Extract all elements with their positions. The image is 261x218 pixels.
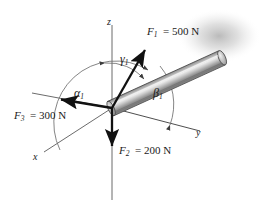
force-diagram-figure: F1 = 500 N F2 = 200 N F3 = 300 N α1 β1 γ…	[0, 0, 261, 218]
figure-canvas	[0, 0, 261, 218]
cylindrical-rod	[105, 49, 228, 116]
force-vector-F3	[61, 100, 112, 109]
y-axis-line	[112, 108, 200, 131]
